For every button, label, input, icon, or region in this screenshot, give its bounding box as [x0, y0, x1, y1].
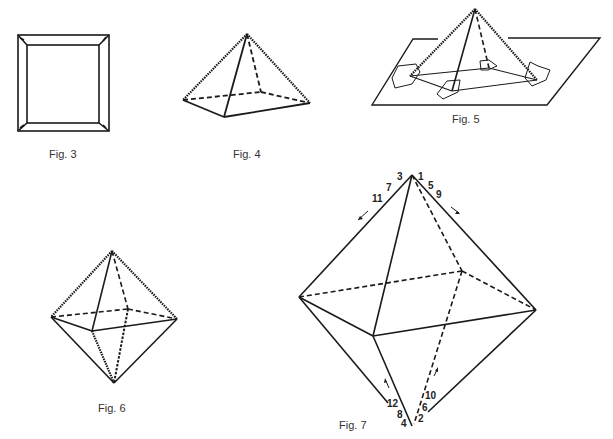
- fig7-numbered-octahedron-drawing: [0, 0, 613, 439]
- fig7-label-5: 5: [428, 180, 434, 191]
- fig7-label-1: 1: [418, 171, 424, 182]
- fig7-label-4: 4: [401, 418, 407, 429]
- fig7-label-9: 9: [436, 189, 442, 200]
- fig7-caption: Fig. 7: [339, 419, 367, 431]
- fig7-label-2: 2: [418, 413, 424, 424]
- fig7-label-3: 3: [397, 171, 403, 182]
- fig7-label-12: 12: [387, 398, 398, 409]
- fig7-label-6: 6: [422, 402, 428, 413]
- fig7-label-7: 7: [386, 182, 392, 193]
- fig7-label-10: 10: [425, 390, 436, 401]
- fig7-label-11: 11: [372, 193, 383, 204]
